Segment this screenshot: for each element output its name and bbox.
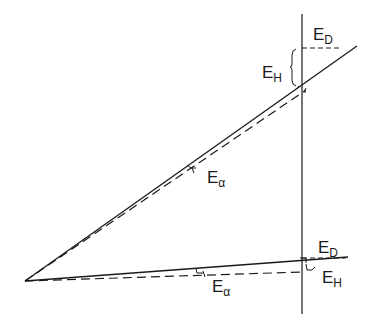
- upper-eh-label: EH: [262, 63, 282, 85]
- lower-ealpha-label: Eα: [212, 277, 230, 299]
- upper-dashed-ray: [25, 90, 306, 281]
- error-diagram: ED EH Eα ED EH Eα: [0, 0, 375, 326]
- lower-dashed-ray: [25, 272, 302, 281]
- upper-brace-icon: [290, 49, 296, 86]
- lower-solid-ray: [25, 257, 348, 281]
- upper-ed-label: ED: [313, 25, 333, 47]
- lower-eh-label: EH: [322, 268, 342, 290]
- upper-solid-ray: [25, 46, 357, 281]
- lower-ed-label: ED: [318, 238, 338, 260]
- upper-ealpha-label: Eα: [207, 168, 225, 190]
